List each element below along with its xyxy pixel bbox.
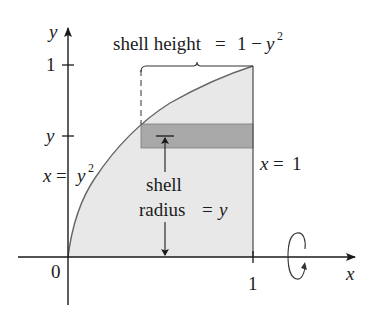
svg-text:1: 1 (292, 153, 302, 174)
svg-text:2: 2 (88, 161, 94, 175)
line-label: x = 1 (259, 153, 302, 174)
x-tick-one-label: 1 (248, 273, 258, 294)
svg-text:=: = (56, 165, 67, 186)
shell-height-brace (141, 62, 253, 72)
origin-label: 0 (51, 261, 61, 282)
svg-text:shell height: shell height (113, 33, 202, 54)
y-tick-one-label: 1 (46, 54, 56, 75)
x-axis-label: x (345, 263, 355, 284)
svg-text:=: = (202, 199, 213, 220)
svg-text:x: x (259, 153, 269, 174)
shaded-region (68, 66, 253, 257)
y-tick-var-label: y (44, 125, 55, 146)
svg-text:y: y (75, 165, 86, 186)
rotation-icon (288, 233, 307, 279)
shell-method-diagram: y 1 y 0 1 x x = y 2 x = 1 shell height =… (0, 0, 382, 318)
svg-text:=: = (273, 153, 284, 174)
y-axis-label: y (47, 21, 58, 42)
svg-text:y: y (264, 33, 275, 54)
svg-text:x: x (42, 165, 52, 186)
shell-height-label: shell height = 1 − y 2 (113, 29, 283, 54)
svg-text:=: = (215, 33, 226, 54)
svg-text:shell: shell (146, 174, 182, 195)
svg-text:2: 2 (277, 29, 283, 43)
svg-text:1 −: 1 − (237, 33, 262, 54)
svg-text:radius: radius (139, 199, 185, 220)
svg-text:y: y (217, 199, 228, 220)
